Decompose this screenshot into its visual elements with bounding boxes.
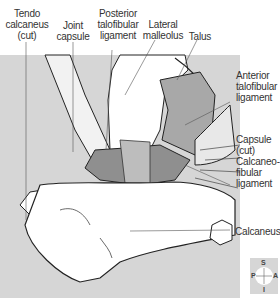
label-posterior-talofibular: Posterior talofibular ligament xyxy=(93,8,143,41)
compass-inferior: I xyxy=(263,286,265,293)
label-calcaneofibular: Calcaneo- fibular ligament xyxy=(236,156,280,189)
compass-anterior: A xyxy=(273,272,278,279)
label-anterior-talofibular: Anterior talofibular ligament xyxy=(236,70,280,103)
compass-superior: S xyxy=(261,259,266,266)
label-talus: Talus xyxy=(185,31,215,42)
label-lateral-malleolus: Lateral malleolus xyxy=(141,19,185,41)
label-calcaneus: Calcaneus xyxy=(235,226,280,237)
label-joint-capsule: Joint capsule xyxy=(56,20,90,42)
compass-posterior: P xyxy=(251,272,256,279)
posterior-talofibular-ligament xyxy=(120,140,150,185)
label-capsule-cut: Capsule (cut) xyxy=(236,134,280,156)
ankle-ligament-diagram: Tendo calcaneus (cut) Joint capsule Post… xyxy=(0,0,280,298)
label-tendo-calcaneus: Tendo calcaneus (cut) xyxy=(4,8,50,41)
